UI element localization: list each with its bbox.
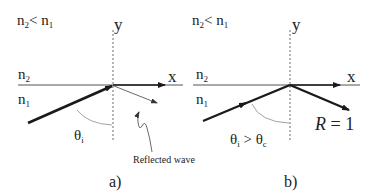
angle-label-a: θi	[74, 128, 84, 145]
incident-ray-b-1	[203, 103, 246, 121]
medium-n1-label-b: n1	[196, 92, 208, 109]
y-axis-label-b: y	[292, 16, 301, 33]
incident-ray-b-2	[244, 85, 290, 104]
caption-b: b)	[284, 174, 297, 190]
reflected-ray-a	[114, 86, 157, 103]
pointer-wave-a	[138, 112, 152, 152]
medium-n2-label-b: n2	[196, 67, 208, 84]
x-axis-label-b: x	[347, 68, 356, 85]
panel-a	[18, 30, 183, 152]
angle-arc-a	[77, 110, 112, 125]
y-axis-label-a: y	[114, 16, 123, 33]
reflected-wave-annotation: Reflected wave	[133, 155, 195, 165]
diagram-canvas	[0, 0, 373, 196]
caption-a: a)	[109, 174, 121, 190]
condition-label-b: n2< n1	[192, 13, 228, 30]
condition-label-a: n2< n1	[17, 13, 53, 30]
angle-arc-b	[252, 104, 289, 123]
x-axis-label-a: x	[168, 68, 177, 85]
incident-ray-a	[28, 86, 112, 123]
reflectance-label: R = 1	[315, 115, 354, 133]
medium-n1-label-a: n1	[18, 92, 30, 109]
reflected-ray-b	[290, 85, 349, 110]
angle-label-b: θi > θc	[230, 132, 267, 149]
medium-n2-label-a: n2	[18, 67, 30, 84]
